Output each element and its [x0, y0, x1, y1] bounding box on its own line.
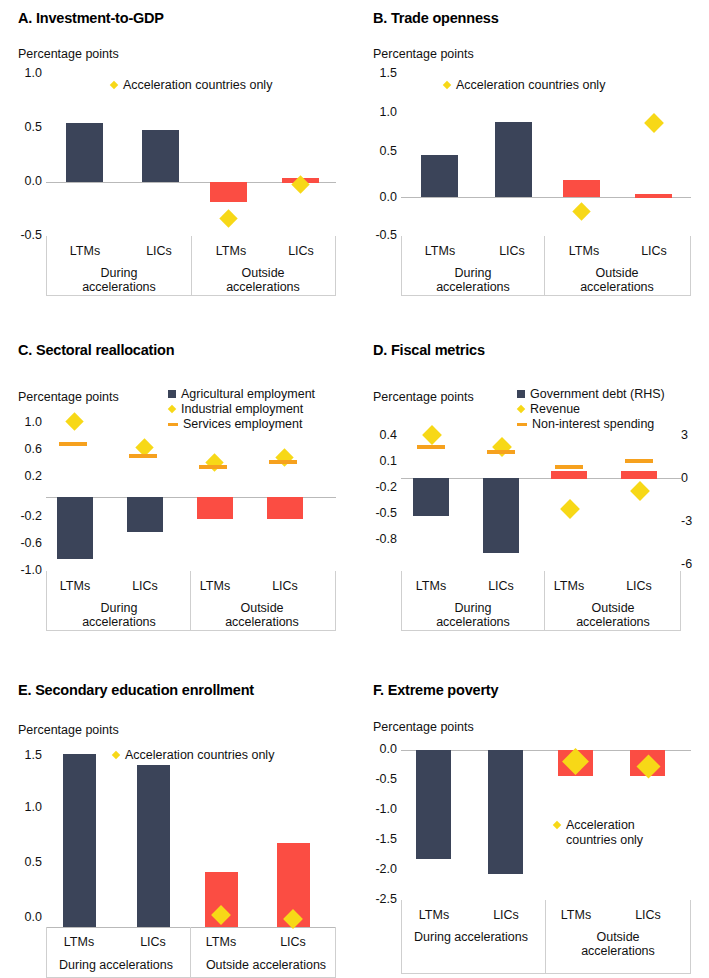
- panel-a-bar-outside-ltms: [210, 182, 247, 202]
- panel-b-xlabel-3: LICs: [623, 244, 685, 258]
- panel-f-xlabel-1: LICs: [475, 908, 537, 922]
- panel-e-legend: Acceleration countries only: [112, 748, 274, 763]
- panel-c-legend-label-1: Industrial employment: [181, 402, 303, 416]
- panel-f-ytick-1: -0.5: [355, 772, 397, 786]
- panel-d-fiscal-metrics: D. Fiscal metrics Percentage points 0.4 …: [355, 330, 709, 660]
- panel-b-legend: Acceleration countries only: [443, 78, 605, 93]
- panel-b-bar-during-lics: [495, 122, 532, 197]
- panel-e-ytick-0: 1.5: [0, 748, 42, 762]
- panel-b-title: B. Trade openness: [373, 10, 499, 26]
- panel-f-ytick-5: -2.5: [355, 892, 397, 906]
- diamond-icon: [553, 821, 561, 829]
- panel-e-units-label: Percentage points: [18, 723, 119, 737]
- panel-b-units-label: Percentage points: [373, 47, 474, 61]
- panel-c-xlabel-1: LICs: [114, 579, 176, 593]
- panel-e-xlabel-2: LTMs: [190, 935, 252, 949]
- panel-e-title: E. Secondary education enrollment: [18, 682, 254, 698]
- panel-b-trade-openness: B. Trade openness Percentage points 1.5 …: [355, 0, 709, 330]
- panel-d-legend-label-1: Revenue: [530, 402, 580, 416]
- panel-f-xlabel-0: LTMs: [403, 908, 465, 922]
- panel-b-bar-during-ltms: [421, 155, 458, 197]
- panel-d-ytick-4: -0.8: [355, 532, 397, 546]
- diamond-icon: [443, 81, 451, 89]
- panel-b-diamond-outside-lics: [644, 113, 664, 133]
- panel-c-ytick-0: 1.0: [0, 415, 42, 429]
- panel-d-bar-debt-lics-outside: [621, 471, 657, 479]
- diamond-icon: [112, 751, 120, 759]
- panel-b-xlabel-0: LTMs: [409, 244, 471, 258]
- panel-e-ytick-3: 0.0: [0, 910, 42, 924]
- panel-b-ytick-2: 0.5: [355, 144, 397, 158]
- panel-d-ytick-3: -0.5: [355, 506, 397, 520]
- square-icon: [517, 390, 525, 398]
- panel-a-ytick-2: 0.0: [0, 174, 42, 188]
- panel-c-ytick-5: -1.0: [0, 563, 42, 577]
- panel-a-diamond-outside-ltms: [219, 209, 237, 227]
- panel-d-bar-debt-ltms-outside: [551, 471, 587, 479]
- panel-d-legend-label-0: Government debt (RHS): [530, 387, 665, 401]
- panel-c-dash-services-lics-outside: [269, 460, 297, 464]
- diamond-icon: [517, 405, 525, 413]
- panel-d-ytick-0: 0.4: [355, 428, 397, 442]
- panel-c-ytick-2: 0.2: [0, 469, 42, 483]
- panel-a-legend: Acceleration countries only: [110, 78, 272, 93]
- panel-c-bar-outside-lics: [267, 497, 303, 519]
- panel-e-legend-label-0: Acceleration countries only: [125, 748, 274, 762]
- panel-d-y2tick-0: 3: [681, 428, 709, 442]
- panel-c-ytick-3: -0.2: [0, 509, 42, 523]
- panel-f-ytick-3: -1.5: [355, 832, 397, 846]
- panel-d-xlabel-0: LTMs: [400, 579, 462, 593]
- panel-d-legend: Government debt (RHS) Revenue Non-intere…: [517, 387, 665, 432]
- panel-f-legend-text: Acceleration countries only: [566, 818, 643, 848]
- panel-f-bar-during-lics: [488, 750, 523, 874]
- panel-d-diamond-revenue-lics-outside: [630, 481, 650, 501]
- panel-b-ytick-1: 1.0: [355, 105, 397, 119]
- panel-c-legend-label-2: Services employment: [183, 417, 303, 431]
- panel-e-ytick-1: 1.0: [0, 800, 42, 814]
- panel-c-ytick-4: -0.6: [0, 536, 42, 550]
- panel-b-diamond-outside-ltms: [572, 202, 590, 220]
- figure-panel-grid: A. Investment-to-GDP Percentage points 1…: [0, 0, 709, 978]
- panel-a-legend-label-0: Acceleration countries only: [123, 78, 272, 92]
- panel-c-legend-label-0: Agricultural employment: [181, 387, 315, 401]
- panel-a-bar-during-lics: [142, 130, 179, 182]
- panel-a-ytick-3: -0.5: [0, 228, 42, 242]
- panel-a-xlabel-2: LTMs: [200, 244, 262, 258]
- panel-e-xlabel-1: LICs: [122, 935, 184, 949]
- panel-e-secondary-education-enrollment: E. Secondary education enrollment Percen…: [0, 660, 355, 978]
- panel-c-ytick-1: 0.6: [0, 442, 42, 456]
- panel-c-dash-services-lics-during: [129, 454, 157, 458]
- panel-a-ytick-0: 1.0: [0, 66, 42, 80]
- panel-d-dash-spending-lics-during: [487, 450, 515, 454]
- dash-icon: [517, 423, 527, 426]
- panel-a-bar-during-ltms: [66, 123, 103, 182]
- panel-f-extreme-poverty: F. Extreme poverty Percentage points 0.0…: [355, 660, 709, 978]
- panel-f-bar-during-ltms: [416, 750, 451, 859]
- panel-d-xlabel-3: LICs: [608, 579, 670, 593]
- panel-c-xlabel-3: LICs: [254, 579, 316, 593]
- panel-a-group-label-during: During accelerations: [48, 266, 190, 294]
- panel-b-group-label-during: During accelerations: [403, 266, 543, 294]
- panel-a-xlabel-3: LICs: [270, 244, 332, 258]
- panel-d-y2tick-2: -3: [681, 514, 709, 528]
- panel-d-y2tick-3: -6: [681, 557, 709, 571]
- panel-d-y2tick-1: 0: [681, 471, 709, 485]
- panel-b-bar-outside-lics: [635, 194, 672, 198]
- panel-f-units-label: Percentage points: [373, 720, 474, 734]
- panel-d-dash-spending-lics-outside: [625, 459, 653, 463]
- panel-f-ytick-2: -1.0: [355, 802, 397, 816]
- panel-d-diamond-revenue-ltms-during: [422, 425, 442, 445]
- panel-c-group-label-outside: Outside accelerations: [191, 601, 333, 629]
- panel-b-ytick-3: 0.0: [355, 190, 397, 204]
- panel-d-group-label-outside: Outside accelerations: [545, 601, 681, 629]
- diamond-icon: [168, 405, 176, 413]
- panel-c-dash-services-ltms-outside: [199, 465, 227, 469]
- panel-b-bar-outside-ltms: [563, 180, 600, 197]
- diamond-icon: [110, 81, 118, 89]
- panel-d-ytick-2: -0.2: [355, 480, 397, 494]
- panel-a-ytick-1: 0.5: [0, 120, 42, 134]
- panel-d-bar-debt-lics-during: [483, 478, 519, 553]
- panel-d-legend-label-2: Non-interest spending: [532, 417, 654, 431]
- panel-e-group-label-during: During accelerations: [40, 958, 192, 972]
- panel-f-title: F. Extreme poverty: [373, 682, 498, 698]
